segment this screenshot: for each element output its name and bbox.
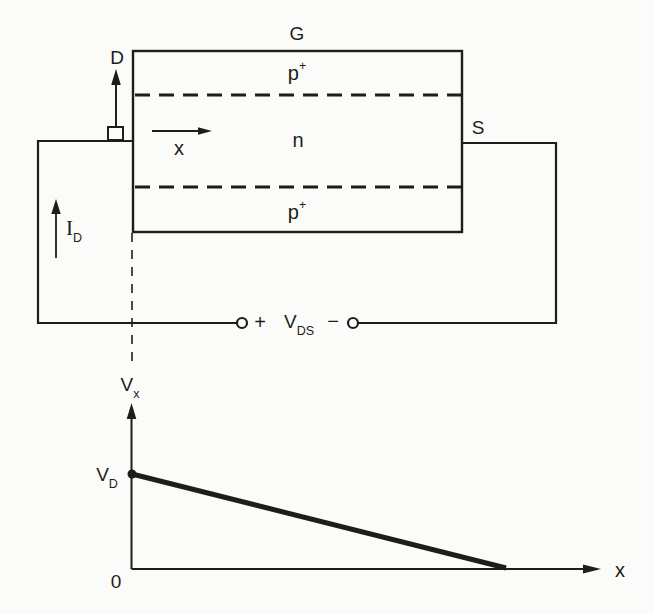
vds-plus-text: +: [254, 311, 266, 333]
bottom-gate-region-base: p: [288, 201, 299, 223]
graph-origin-label: 0: [111, 572, 122, 591]
source-terminal-label: S: [472, 118, 485, 137]
channel-potential-line: [132, 474, 506, 568]
gate-terminal-text: G: [290, 23, 305, 44]
vds-minus-terminal-circle: [348, 318, 358, 328]
graph-x-axis-arrowhead: [583, 565, 601, 574]
channel-region-label: n: [292, 130, 303, 150]
channel-position-text: x: [174, 137, 184, 159]
graph-origin-text: 0: [111, 571, 122, 592]
top-gate-region-sup: +: [299, 58, 306, 72]
vds-sub: DS: [297, 324, 314, 338]
graph-x-axis-text: x: [615, 559, 625, 581]
drain-lead-arrowhead: [111, 69, 121, 85]
top-gate-region-base: p: [288, 62, 299, 84]
graph-y-axis-label: Vx: [121, 375, 140, 398]
graph-y-axis-base: V: [121, 374, 134, 395]
channel-region-text: n: [292, 129, 303, 151]
vd-intercept-sub: D: [109, 477, 118, 491]
diagram-svg: [0, 0, 654, 614]
figure-canvas: G D S p+ n p+ x ID + VDS − Vx VD 0 x: [0, 0, 654, 614]
gate-terminal-label: G: [290, 24, 305, 43]
channel-x-arrowhead: [198, 127, 212, 134]
vds-minus-sign: −: [327, 311, 339, 331]
drain-terminal-label: D: [110, 48, 124, 67]
drain-current-arrowhead: [51, 199, 60, 214]
vd-intercept-label: VD: [96, 465, 118, 488]
drain-contact-square: [108, 127, 123, 140]
graph-y-axis-sub: x: [133, 387, 139, 401]
channel-position-label: x: [174, 138, 184, 158]
bottom-gate-region-label: p+: [288, 202, 306, 223]
vds-plus-sign: +: [254, 312, 266, 332]
vds-base: V: [284, 311, 297, 332]
bottom-gate-region-sup: +: [299, 197, 306, 211]
vds-label: VDS: [284, 312, 314, 335]
drain-current-base: I: [66, 216, 73, 240]
vds-plus-terminal-circle: [237, 318, 247, 328]
drain-current-sub: D: [73, 231, 82, 245]
drain-current-label: ID: [66, 218, 82, 242]
vd-point-dot: [128, 470, 137, 479]
graph-x-axis-label: x: [615, 560, 625, 580]
graph-y-axis-arrowhead: [127, 403, 137, 419]
vd-intercept-base: V: [96, 464, 109, 485]
top-gate-region-label: p+: [288, 63, 306, 84]
vds-minus-text: −: [327, 310, 339, 332]
source-terminal-text: S: [472, 117, 485, 138]
drain-terminal-text: D: [110, 47, 124, 68]
